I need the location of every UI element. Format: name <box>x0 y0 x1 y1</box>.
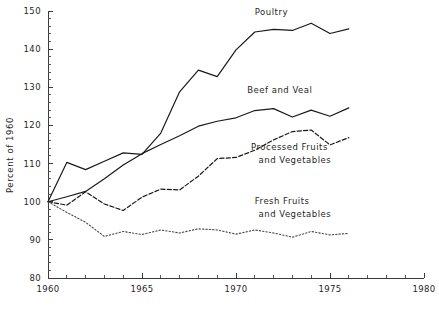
y-tick-label: 120 <box>24 120 41 130</box>
chart-container: 1501401301201101009080 19601965197019751… <box>0 0 439 310</box>
y-axis-title: Percent of 1960 <box>5 117 15 193</box>
y-tick-label: 110 <box>24 159 41 169</box>
processed-fruits-label-line1: Processed Fruits <box>251 142 328 152</box>
series-line-fresh-fruits-and-vegetables <box>48 202 349 237</box>
x-tick-label: 1975 <box>318 284 341 294</box>
x-tick-label: 1965 <box>130 284 153 294</box>
y-tick-label: 100 <box>24 197 41 207</box>
y-axis-tick-labels: 1501401301201101009080 <box>24 6 41 283</box>
processed-fruits-label-line2: and Vegetables <box>259 155 332 165</box>
fresh-fruits-label-line1: Fresh Fruits <box>255 196 310 206</box>
poultry-label: Poultry <box>255 7 288 17</box>
fresh-fruits-label-line2: and Vegetables <box>259 209 332 219</box>
axes-group <box>48 11 424 278</box>
x-tick-label: 1980 <box>412 284 435 294</box>
y-tick-label: 150 <box>24 6 41 16</box>
y-tick-label: 130 <box>24 82 41 92</box>
x-axis-ticks <box>48 273 424 278</box>
x-tick-label: 1960 <box>36 284 59 294</box>
beef-and-veal-label: Beef and Veal <box>247 85 312 95</box>
x-axis-tick-labels: 19601965197019751980 <box>36 284 435 294</box>
y-tick-label: 140 <box>24 44 41 54</box>
y-tick-label: 80 <box>29 273 41 283</box>
x-tick-label: 1970 <box>224 284 247 294</box>
y-tick-label: 90 <box>29 235 41 245</box>
y-axis-ticks <box>48 11 53 278</box>
line-chart: 1501401301201101009080 19601965197019751… <box>0 0 439 310</box>
